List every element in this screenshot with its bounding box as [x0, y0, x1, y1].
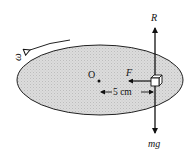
distance-label: 5 cm — [113, 87, 132, 97]
block-icon — [151, 75, 162, 86]
diagram-canvas: ω O R mg F 5 cm — [0, 0, 194, 151]
friction-label: F — [125, 67, 133, 78]
center-label: O — [88, 69, 95, 80]
center-dot — [98, 80, 101, 83]
weight-label: mg — [148, 138, 160, 149]
omega-label: ω — [11, 53, 23, 61]
reaction-label: R — [150, 12, 157, 23]
